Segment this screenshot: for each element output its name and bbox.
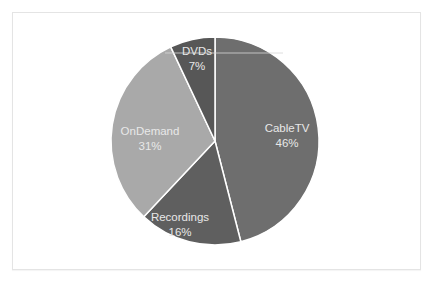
- label-ondemand-pct: 31%: [138, 140, 161, 152]
- label-recordings-name: Recordings: [151, 211, 209, 223]
- label-cabletv-pct: 46%: [275, 137, 298, 149]
- label-dvds-pct: 7%: [189, 60, 206, 72]
- label-cabletv-name: CableTV: [265, 122, 310, 134]
- label-ondemand-name: OnDemand: [121, 125, 180, 137]
- label-dvds-name: DVDs: [182, 45, 212, 57]
- pie-chart: CableTV 46% Recordings 16% OnDemand 31% …: [0, 0, 433, 281]
- label-recordings-pct: 16%: [168, 226, 191, 238]
